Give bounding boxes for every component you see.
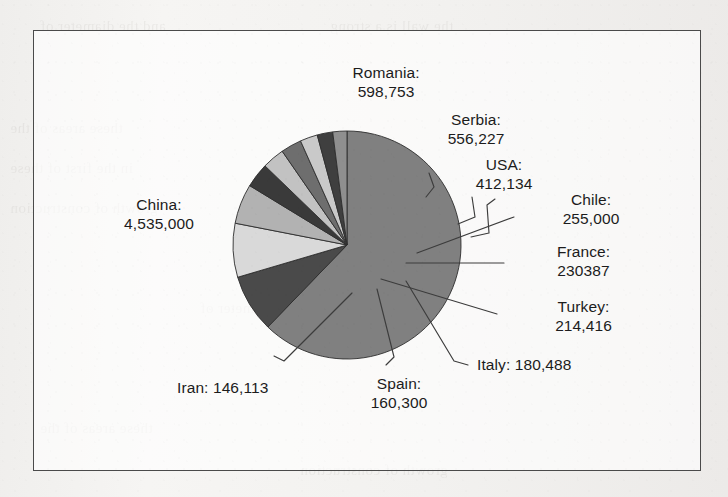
- slice-label-spain: Spain: 160,300: [334, 375, 464, 413]
- slice-label-serbia-value: 556,227: [406, 130, 546, 149]
- slice-label-iran-text: Iran: 146,113: [177, 379, 269, 396]
- slice-label-turkey: Turkey: 214,416: [511, 298, 656, 336]
- pie-slice-group: [233, 131, 461, 359]
- slice-label-usa-name: USA:: [486, 156, 523, 173]
- chart-frame: Romania: 598,753 Serbia: 556,227 USA: 41…: [33, 30, 701, 471]
- slice-label-spain-name: Spain:: [377, 375, 422, 392]
- slice-label-turkey-name: Turkey:: [558, 298, 610, 315]
- slice-label-iran: Iran: 146,113: [177, 379, 269, 398]
- leader-line-serbia: [458, 197, 475, 224]
- slice-label-serbia-name: Serbia:: [451, 111, 501, 128]
- slice-label-romania: Romania: 598,753: [311, 64, 461, 102]
- slice-label-chile: Chile: 255,000: [526, 191, 656, 229]
- slice-label-serbia: Serbia: 556,227: [406, 111, 546, 149]
- slice-label-france-value: 230387: [511, 262, 656, 281]
- slice-label-usa: USA: 412,134: [434, 156, 574, 194]
- slice-label-turkey-value: 214,416: [511, 317, 656, 336]
- slice-label-spain-value: 160,300: [334, 394, 464, 413]
- slice-label-chile-name: Chile:: [571, 191, 611, 208]
- slice-label-china-value: 4,535,000: [84, 215, 234, 234]
- slice-label-france-name: France:: [557, 243, 610, 260]
- slice-label-chile-value: 255,000: [526, 210, 656, 229]
- pie-chart-area: Romania: 598,753 Serbia: 556,227 USA: 41…: [34, 31, 700, 470]
- slice-label-france: France: 230387: [511, 243, 656, 281]
- slice-label-china-name: China:: [136, 196, 181, 213]
- slice-label-italy-text: Italy: 180,488: [477, 356, 571, 373]
- slice-label-romania-name: Romania:: [352, 64, 419, 81]
- slice-label-romania-value: 598,753: [311, 83, 461, 102]
- slice-label-china: China: 4,535,000: [84, 196, 234, 234]
- slice-label-italy: Italy: 180,488: [477, 356, 571, 375]
